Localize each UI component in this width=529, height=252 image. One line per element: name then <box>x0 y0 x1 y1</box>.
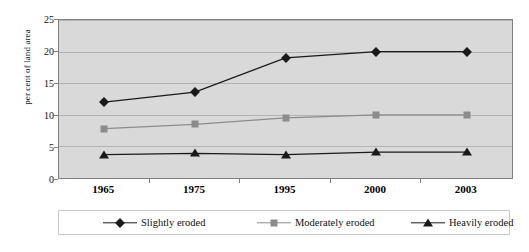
y-axis-tick-labels: 25 20 15 10 5 0 <box>26 0 54 252</box>
chart-legend: Slightly eroded Moderately eroded Heavil… <box>58 210 510 235</box>
y-tick-label: 20 <box>26 46 54 57</box>
legend-item-heavily-eroded: Heavily eroded <box>411 217 513 229</box>
chart-figure: per cent of land area 25 20 15 10 5 0 19… <box>0 0 529 252</box>
legend-label: Heavily eroded <box>449 217 513 228</box>
data-point-marker <box>281 150 291 158</box>
legend-label: Moderately eroded <box>295 217 375 228</box>
x-tick-label: 1975 <box>183 183 205 195</box>
data-point-marker <box>371 148 381 156</box>
x-tick-mark <box>239 179 240 183</box>
legend-label: Slightly eroded <box>141 217 205 228</box>
legend-item-slightly-eroded: Slightly eroded <box>103 217 205 229</box>
data-point-marker <box>282 114 289 121</box>
y-tick-label: 25 <box>26 14 54 25</box>
legend-symbol-triangle-icon <box>411 217 445 229</box>
x-tick-label: 1995 <box>274 183 296 195</box>
x-tick-mark <box>330 179 331 183</box>
data-point-marker <box>101 125 108 132</box>
x-tick-label: 2003 <box>455 183 477 195</box>
data-point-marker <box>190 149 200 157</box>
y-tick-label: 0 <box>26 174 54 185</box>
legend-symbol-square-icon <box>257 217 291 229</box>
x-tick-mark <box>149 179 150 183</box>
data-point-marker <box>463 111 470 118</box>
legend-item-moderately-eroded: Moderately eroded <box>257 217 375 229</box>
data-point-marker <box>462 148 472 156</box>
plot-area <box>58 19 513 179</box>
data-point-marker <box>191 121 198 128</box>
y-tick-label: 5 <box>26 142 54 153</box>
x-tick-label: 1965 <box>92 183 114 195</box>
y-tick-label: 15 <box>26 78 54 89</box>
x-tick-label: 2000 <box>364 183 386 195</box>
data-point-marker <box>373 111 380 118</box>
x-tick-mark <box>420 179 421 183</box>
y-tick-mark <box>54 179 58 180</box>
y-tick-label: 10 <box>26 110 54 121</box>
data-point-marker <box>99 150 109 158</box>
legend-symbol-diamond-icon <box>103 217 137 229</box>
